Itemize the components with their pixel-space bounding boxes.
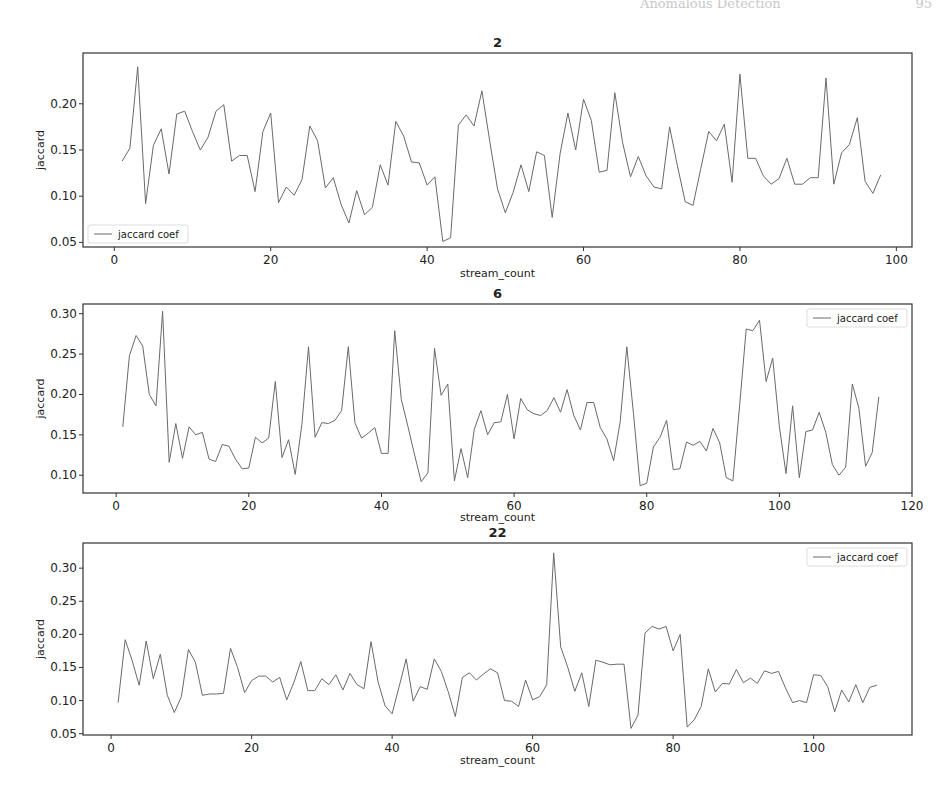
x-tick-label: 40: [374, 499, 389, 513]
y-axis-label: jaccard: [34, 379, 47, 420]
x-tick-label: 40: [384, 741, 399, 755]
x-tick-label: 20: [263, 253, 278, 267]
chart-title: 6: [493, 286, 502, 301]
y-tick-label: 0.15: [50, 660, 77, 674]
y-tick-label: 0.30: [50, 561, 77, 575]
y-axis-label: jaccard: [34, 619, 47, 660]
y-tick-label: 0.05: [50, 727, 77, 741]
x-tick-label: 60: [525, 741, 540, 755]
x-tick-label: 0: [112, 499, 120, 513]
y-axis-label: jaccard: [34, 130, 47, 171]
x-tick-label: 80: [665, 741, 680, 755]
x-tick-label: 20: [241, 499, 256, 513]
x-tick-label: 0: [107, 741, 115, 755]
plot-frame: [83, 53, 912, 247]
y-tick-label: 0.20: [50, 97, 77, 111]
y-tick-label: 0.10: [50, 468, 77, 482]
y-tick-label: 0.20: [50, 387, 77, 401]
x-tick-label: 80: [639, 499, 654, 513]
x-tick-label: 120: [901, 499, 924, 513]
x-tick-label: 60: [576, 253, 591, 267]
plot-frame: [83, 304, 912, 493]
y-tick-label: 0.25: [50, 594, 77, 608]
legend: jaccard coef: [807, 309, 907, 327]
legend: jaccard coef: [807, 548, 907, 566]
x-tick-label: 0: [110, 253, 118, 267]
x-tick-label: 20: [244, 741, 259, 755]
chart-title: 2: [493, 35, 502, 50]
charts-figure: 20204060801000.050.100.150.20stream_coun…: [0, 0, 951, 800]
chart-22: 220204060801000.050.100.150.200.250.30st…: [34, 525, 912, 767]
chart-title: 22: [488, 525, 506, 540]
legend-label: jaccard coef: [836, 313, 898, 324]
y-tick-label: 0.15: [50, 428, 77, 442]
x-tick-label: 100: [768, 499, 791, 513]
y-tick-label: 0.30: [50, 307, 77, 321]
legend: jaccard coef: [88, 225, 188, 243]
legend-label: jaccard coef: [836, 552, 898, 563]
y-tick-label: 0.25: [50, 347, 77, 361]
y-tick-label: 0.10: [50, 189, 77, 203]
x-tick-label: 100: [885, 253, 908, 267]
y-tick-label: 0.15: [50, 143, 77, 157]
x-axis-label: stream_count: [460, 267, 536, 280]
plot-frame: [83, 543, 912, 735]
x-tick-label: 80: [732, 253, 747, 267]
legend-label: jaccard coef: [117, 229, 179, 240]
x-axis-label: stream_count: [460, 754, 536, 767]
y-tick-label: 0.20: [50, 627, 77, 641]
chart-2: 20204060801000.050.100.150.20stream_coun…: [34, 35, 912, 280]
x-tick-label: 100: [802, 741, 825, 755]
y-tick-label: 0.05: [50, 235, 77, 249]
y-tick-label: 0.10: [50, 694, 77, 708]
x-axis-label: stream_count: [460, 511, 536, 524]
chart-6: 60204060801001200.100.150.200.250.30stre…: [34, 286, 923, 524]
x-tick-label: 40: [419, 253, 434, 267]
